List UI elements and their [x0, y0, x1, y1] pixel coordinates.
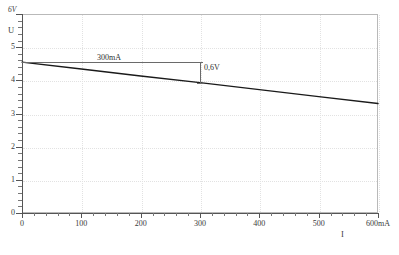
x-tick-label: 300	[194, 219, 206, 228]
x-tick-minor	[153, 213, 154, 216]
x-tick-major	[378, 213, 379, 218]
x-tick-major	[141, 213, 142, 218]
y-tick-major	[16, 114, 22, 115]
x-tick-major	[200, 213, 201, 218]
gridline-vertical	[82, 15, 83, 212]
y-tick-major	[16, 80, 22, 81]
x-tick-minor	[105, 213, 106, 216]
annotation-span-line-current	[22, 62, 200, 63]
y-tick-minor	[18, 153, 22, 154]
y-tick-minor	[18, 173, 22, 174]
y-tick-label: 1	[1, 176, 15, 184]
x-tick-minor	[283, 213, 284, 216]
y-tick-minor	[18, 41, 22, 42]
annotation-label-current: 300mA	[95, 53, 123, 62]
x-tick-minor	[271, 213, 272, 216]
y-tick-minor	[18, 27, 22, 28]
y-tick-minor	[18, 54, 22, 55]
y-tick-minor	[18, 167, 22, 168]
x-tick-minor	[129, 213, 130, 216]
annotation-cap-bottom	[197, 83, 203, 84]
y-axis-name-label: U	[8, 26, 14, 35]
x-tick-minor	[366, 213, 367, 216]
x-tick-label: 400	[253, 219, 265, 228]
y-tick-label: 3	[1, 110, 15, 118]
y-axis-top-unit-label: 6V	[8, 6, 16, 14]
x-tick-major	[259, 213, 260, 218]
annotation-label-voltage: 0,6V	[202, 63, 222, 72]
x-tick-minor	[46, 213, 47, 216]
y-tick-major	[16, 180, 22, 181]
y-tick-major	[16, 14, 22, 15]
y-tick-minor	[18, 127, 22, 128]
x-tick-minor	[224, 213, 225, 216]
y-tick-minor	[18, 160, 22, 161]
y-tick-minor	[18, 74, 22, 75]
x-tick-label: 200	[135, 219, 147, 228]
x-tick-major	[319, 213, 320, 218]
x-tick-label: 100	[75, 219, 87, 228]
x-tick-minor	[307, 213, 308, 216]
y-tick-minor	[18, 21, 22, 22]
y-tick-minor	[18, 200, 22, 201]
x-tick-minor	[342, 213, 343, 216]
y-tick-minor	[18, 34, 22, 35]
x-tick-minor	[354, 213, 355, 216]
y-tick-minor	[18, 140, 22, 141]
x-tick-minor	[331, 213, 332, 216]
x-tick-major	[22, 213, 23, 218]
y-tick-minor	[18, 94, 22, 95]
x-tick-minor	[34, 213, 35, 216]
gridline-vertical	[379, 15, 380, 212]
y-tick-minor	[18, 87, 22, 88]
y-tick-minor	[18, 133, 22, 134]
x-axis-name-label: I	[341, 230, 344, 239]
x-tick-minor	[295, 213, 296, 216]
x-tick-major	[81, 213, 82, 218]
y-tick-minor	[18, 186, 22, 187]
y-tick-minor	[18, 120, 22, 121]
y-tick-label: 4	[1, 76, 15, 84]
x-tick-minor	[176, 213, 177, 216]
y-tick-major	[16, 147, 22, 148]
gridline-vertical	[260, 15, 261, 212]
x-tick-minor	[188, 213, 189, 216]
y-tick-minor	[18, 193, 22, 194]
x-tick-minor	[93, 213, 94, 216]
plot-area	[22, 14, 378, 213]
gridline-vertical	[320, 15, 321, 212]
x-tick-label: 0	[20, 219, 24, 228]
y-tick-label: 0	[1, 209, 15, 217]
x-tick-minor	[236, 213, 237, 216]
x-tick-minor	[69, 213, 70, 216]
y-tick-minor	[18, 206, 22, 207]
y-tick-major	[16, 47, 22, 48]
gridline-horizontal	[23, 181, 377, 182]
x-tick-minor	[247, 213, 248, 216]
x-tick-label: 500	[313, 219, 325, 228]
gridline-horizontal	[23, 148, 377, 149]
gridline-vertical	[201, 15, 202, 212]
gridline-horizontal	[23, 115, 377, 116]
x-tick-label: 600mA	[366, 219, 390, 228]
chart-container: 012345 0100200300400500600mA 6V U I 300m…	[0, 0, 399, 255]
y-tick-minor	[18, 67, 22, 68]
y-tick-label: 5	[1, 43, 15, 51]
y-tick-minor	[18, 100, 22, 101]
x-tick-minor	[58, 213, 59, 216]
annotation-span-line-voltage	[200, 62, 201, 83]
gridline-vertical	[142, 15, 143, 212]
x-tick-minor	[212, 213, 213, 216]
x-tick-minor	[117, 213, 118, 216]
y-tick-minor	[18, 107, 22, 108]
y-tick-label: 2	[1, 143, 15, 151]
gridline-horizontal	[23, 48, 377, 49]
x-tick-minor	[164, 213, 165, 216]
y-axis-line	[22, 14, 23, 213]
